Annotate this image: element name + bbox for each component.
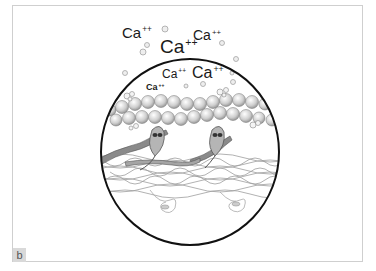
calcium-ion-label: Ca++ [192, 65, 224, 81]
myosin-tails-lower [150, 190, 245, 213]
calcium-ion-label: Ca++ [122, 25, 152, 40]
myosin-head-right [205, 126, 224, 168]
calcium-ion-label: Ca++ [146, 83, 164, 92]
calcium-ion-label: Ca++ [162, 68, 186, 80]
calcium-ion-label: Ca++ [160, 37, 198, 56]
panel-label: b [13, 248, 26, 262]
